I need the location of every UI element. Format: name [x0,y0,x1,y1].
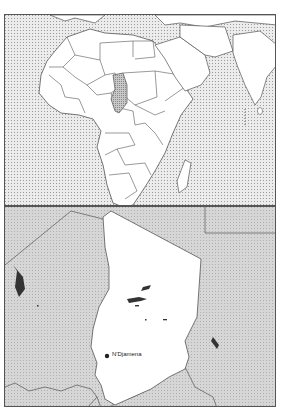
chad-detail-svg [5,207,276,407]
locator-map-africa [4,14,276,206]
capital-marker-icon [105,354,109,358]
africa-locator-svg [5,15,276,206]
detail-map-chad: N'Djamena [4,206,276,407]
capital-label: N'Djamena [112,351,142,357]
